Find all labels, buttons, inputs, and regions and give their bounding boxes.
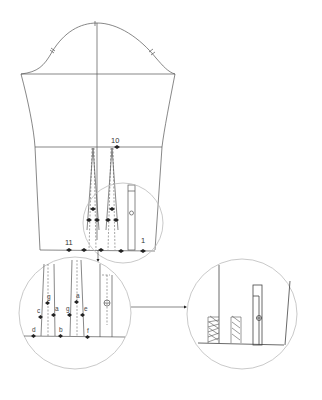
zoom-dart2-right xyxy=(81,260,84,336)
label-e: e xyxy=(84,305,88,312)
label-a: a xyxy=(55,305,59,312)
zoom-dart1-right xyxy=(54,264,55,336)
right-side-seam xyxy=(155,74,175,250)
zoom-detail-left: g c a a g e d b f xyxy=(19,257,131,369)
label-d: d xyxy=(32,326,36,333)
label-c: c xyxy=(37,307,41,314)
zoom-dart1-left xyxy=(41,264,44,336)
zoom-markers xyxy=(31,300,90,339)
label-g-upper: g xyxy=(47,293,51,301)
zoom-circle-left xyxy=(19,257,131,369)
label-f: f xyxy=(87,327,89,334)
finished-hem xyxy=(198,343,284,345)
zoom-circle-right xyxy=(187,259,297,369)
zoom-dart2-left xyxy=(70,260,72,336)
dart-1 xyxy=(89,148,96,250)
arrow-head-icon xyxy=(184,306,187,309)
label-g: g xyxy=(66,305,70,313)
label-10: 10 xyxy=(111,136,119,145)
sleeve-cap-curve xyxy=(21,23,175,74)
label-11: 11 xyxy=(65,238,73,247)
placket xyxy=(128,185,135,250)
dart-2 xyxy=(108,148,115,250)
pleat-hatch-2 xyxy=(231,316,241,343)
button-mark-icon xyxy=(130,211,134,215)
sleeve-pattern-diagram: 10 11 1 xyxy=(0,0,322,400)
label-b: b xyxy=(59,326,63,333)
cap-notch-right xyxy=(149,49,155,55)
zoom-hem xyxy=(24,336,125,337)
pleat-hatch-1 xyxy=(208,316,219,343)
finished-seam-right xyxy=(285,281,290,345)
finished-placket xyxy=(253,285,262,345)
hem-line xyxy=(40,250,155,251)
label-1: 1 xyxy=(141,236,145,245)
zoom-detail-right xyxy=(187,259,297,369)
left-side-seam xyxy=(21,74,40,250)
marker-10 xyxy=(114,145,120,149)
label-a-upper: a xyxy=(76,292,80,299)
dart-2-outline xyxy=(106,148,118,230)
